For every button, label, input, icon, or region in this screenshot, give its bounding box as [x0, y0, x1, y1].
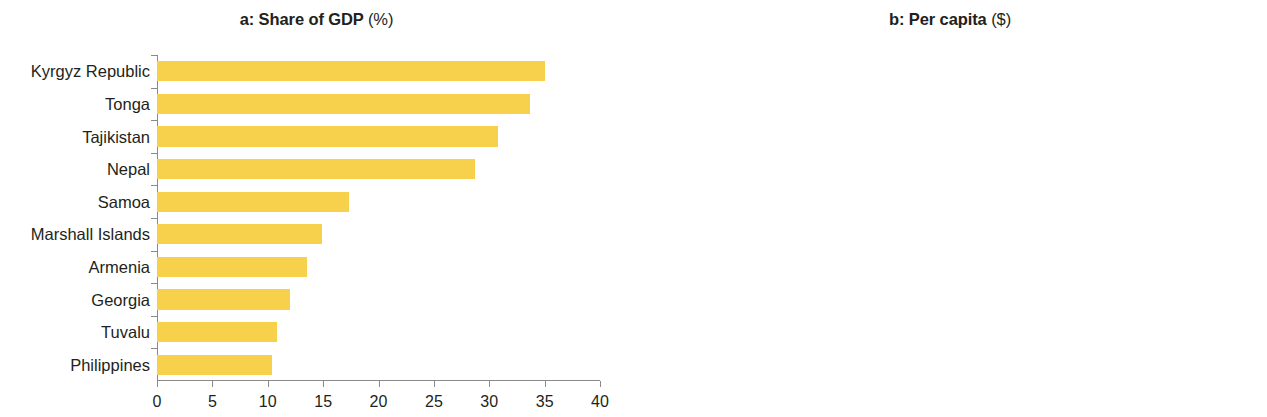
category-label: Tuvalu	[101, 324, 150, 341]
panel-a-title: a: Share of GDP (%)	[0, 10, 633, 29]
bar	[157, 224, 322, 244]
panel-a-x-tick	[268, 381, 269, 387]
panel-a-x-tick-label: 0	[153, 393, 162, 411]
panel-per-capita: b: Per capita ($) 03006009001.2001.500To…	[633, 0, 1267, 417]
panel-a-x-tick-label: 25	[425, 393, 443, 411]
panel-a-y-tick	[151, 153, 157, 154]
category-label: Nepal	[107, 161, 150, 178]
category-label: Tonga	[105, 96, 150, 113]
panel-share-of-gdp: a: Share of GDP (%) 0510152025303540Kyrg…	[0, 0, 633, 417]
bar	[157, 355, 272, 375]
panel-a-y-tick	[151, 283, 157, 284]
category-label: Tajikistan	[82, 128, 150, 145]
panel-a-x-tick-label: 20	[370, 393, 388, 411]
category-label: Kyrgyz Republic	[31, 63, 150, 80]
panel-b-title-unit: ($)	[991, 10, 1011, 28]
category-label: Armenia	[89, 259, 150, 276]
remittances-bar-chart-figure: a: Share of GDP (%) 0510152025303540Kyrg…	[0, 0, 1267, 417]
panel-b-title: b: Per capita ($)	[633, 10, 1267, 29]
bar	[157, 289, 290, 309]
bar	[157, 159, 475, 179]
panel-a-x-tick-label: 35	[536, 393, 554, 411]
bar	[157, 322, 277, 342]
panel-a-y-tick	[151, 88, 157, 89]
panel-a-x-tick-label: 15	[314, 393, 332, 411]
bar	[157, 192, 349, 212]
panel-a-plot-area: 0510152025303540Kyrgyz RepublicTongaTaji…	[157, 55, 600, 381]
panel-a-title-text: a: Share of GDP	[240, 10, 364, 28]
panel-a-x-tick-label: 30	[480, 393, 498, 411]
category-label: Philippines	[70, 356, 150, 373]
bar	[157, 94, 530, 114]
panel-a-x-tick	[600, 381, 601, 387]
category-label: Samoa	[98, 193, 150, 210]
panel-a-x-tick-label: 40	[591, 393, 609, 411]
panel-a-y-tick	[151, 316, 157, 317]
panel-a-y-tick	[151, 55, 157, 56]
panel-a-x-tick	[323, 381, 324, 387]
panel-a-x-tick	[489, 381, 490, 387]
panel-a-x-tick	[212, 381, 213, 387]
panel-a-y-tick	[151, 120, 157, 121]
panel-a-x-tick-label: 10	[259, 393, 277, 411]
panel-a-x-tick	[379, 381, 380, 387]
panel-a-title-unit: (%)	[368, 10, 393, 28]
bar	[157, 61, 545, 81]
panel-a-x-tick	[434, 381, 435, 387]
bar	[157, 257, 307, 277]
panel-a-x-tick	[545, 381, 546, 387]
category-label: Marshall Islands	[31, 226, 150, 243]
panel-b-title-text: b: Per capita	[889, 10, 987, 28]
category-label: Georgia	[91, 291, 150, 308]
bar	[157, 126, 498, 146]
panel-a-y-tick	[151, 185, 157, 186]
panel-a-y-tick	[151, 251, 157, 252]
panel-a-x-tick	[157, 381, 158, 387]
panel-a-x-tick-label: 5	[208, 393, 217, 411]
panel-a-y-tick	[151, 348, 157, 349]
panel-a-y-tick	[151, 218, 157, 219]
